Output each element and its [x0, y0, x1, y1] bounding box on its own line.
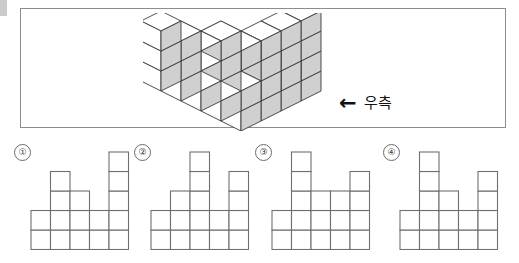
grid-cell — [272, 230, 292, 250]
grid-cell — [420, 230, 440, 250]
direction-label: ← 우측 — [339, 93, 393, 114]
grid-cell — [478, 230, 498, 250]
grid-cell — [459, 210, 479, 230]
option-2-marker: ② — [134, 144, 151, 161]
grid-cell — [31, 210, 51, 230]
answer-options-row: ① ② ③ ④ — [0, 140, 519, 260]
grid-cell — [311, 230, 331, 250]
grid-cell — [51, 171, 71, 191]
grid-cell — [311, 191, 331, 211]
grid-cell — [51, 230, 71, 250]
grid-cell — [70, 230, 90, 250]
grid-cell — [151, 210, 171, 230]
grid-cell — [171, 230, 191, 250]
grid-cell — [210, 210, 230, 230]
option-1-grid — [30, 151, 130, 251]
grid-cell — [190, 191, 210, 211]
grid-cell — [350, 171, 370, 191]
grid-cell — [272, 210, 292, 230]
grid-cell — [420, 171, 440, 191]
grid-cell — [229, 191, 249, 211]
option-4-marker: ④ — [383, 144, 400, 161]
grid-cell — [190, 152, 210, 172]
option-4[interactable]: ④ — [383, 140, 511, 258]
option-grid-svg — [30, 151, 130, 251]
option-grid-svg — [271, 151, 371, 251]
grid-cell — [90, 230, 110, 250]
option-2[interactable]: ② — [134, 140, 260, 258]
grid-cell — [311, 210, 331, 230]
grid-cell — [292, 171, 312, 191]
scan-edge-artifact — [0, 0, 7, 16]
grid-cell — [210, 230, 230, 250]
grid-cell — [439, 191, 459, 211]
grid-cell — [229, 230, 249, 250]
grid-cell — [420, 210, 440, 230]
grid-cell — [229, 171, 249, 191]
option-2-grid — [150, 151, 250, 251]
grid-cell — [439, 230, 459, 250]
grid-cell — [109, 191, 129, 211]
grid-cell — [151, 230, 171, 250]
grid-cell — [31, 230, 51, 250]
grid-cell — [70, 210, 90, 230]
grid-cell — [478, 210, 498, 230]
grid-cell — [292, 210, 312, 230]
grid-cell — [292, 230, 312, 250]
grid-cell — [331, 210, 351, 230]
grid-cell — [478, 171, 498, 191]
grid-cell — [292, 152, 312, 172]
grid-cell — [400, 210, 420, 230]
option-grid-svg — [399, 151, 499, 251]
grid-cell — [229, 210, 249, 230]
grid-cell — [109, 230, 129, 250]
left-arrow-icon: ← — [339, 93, 357, 114]
grid-cell — [350, 230, 370, 250]
grid-cell — [292, 191, 312, 211]
grid-cell — [109, 171, 129, 191]
option-1[interactable]: ① — [14, 140, 140, 258]
option-3-grid — [271, 151, 371, 251]
option-3-marker: ③ — [255, 144, 272, 161]
grid-cell — [51, 191, 71, 211]
option-1-marker: ① — [14, 144, 31, 161]
grid-cell — [70, 191, 90, 211]
direction-label-text: 우측 — [364, 96, 393, 111]
grid-cell — [439, 210, 459, 230]
option-grid-svg — [150, 151, 250, 251]
grid-cell — [190, 230, 210, 250]
grid-cell — [90, 210, 110, 230]
grid-cell — [350, 210, 370, 230]
grid-cell — [478, 191, 498, 211]
option-4-grid — [399, 151, 499, 251]
grid-cell — [171, 210, 191, 230]
grid-cell — [51, 210, 71, 230]
grid-cell — [420, 191, 440, 211]
grid-cell — [190, 210, 210, 230]
grid-cell — [400, 230, 420, 250]
grid-cell — [350, 191, 370, 211]
grid-cell — [171, 191, 191, 211]
grid-cell — [420, 152, 440, 172]
option-3[interactable]: ③ — [255, 140, 383, 258]
grid-cell — [190, 171, 210, 191]
grid-cell — [331, 230, 351, 250]
grid-cell — [331, 191, 351, 211]
grid-cell — [109, 210, 129, 230]
grid-cell — [459, 230, 479, 250]
figure-panel: ← 우측 — [20, 8, 506, 128]
grid-cell — [109, 152, 129, 172]
